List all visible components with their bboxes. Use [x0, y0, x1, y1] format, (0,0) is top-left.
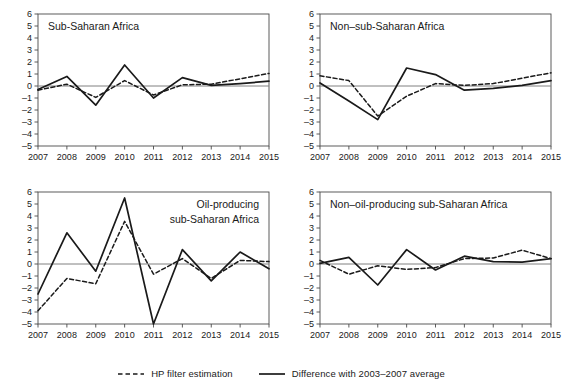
panel-title-line: Non–sub-Saharan Africa [330, 20, 445, 32]
x-tick-label: 2008 [338, 330, 358, 340]
panel-title-line: Sub-Saharan Africa [48, 20, 139, 32]
x-tick-label: 2014 [512, 330, 532, 340]
y-tick-label: –4 [22, 129, 32, 139]
y-axis: 6543210–1–2–3–4–5 [22, 9, 38, 151]
y-tick-label: 3 [27, 45, 32, 55]
y-tick-label: 6 [308, 9, 313, 19]
x-axis: 200720082009201020112012201320142015 [309, 324, 560, 340]
y-tick-label: 2 [27, 235, 32, 245]
y-tick-label: 6 [27, 9, 32, 19]
y-tick-label: –5 [22, 141, 32, 151]
legend-label-difference: Difference with 2003–2007 average [292, 368, 445, 379]
y-tick-label: 1 [308, 69, 313, 79]
panel-top-right: 6543210–1–2–3–4–520072008200920102011201… [282, 0, 563, 178]
x-tick-label: 2009 [367, 330, 387, 340]
series-line-hp-filter [320, 73, 551, 116]
y-tick-label: –1 [303, 93, 313, 103]
x-tick-label: 2015 [540, 152, 560, 162]
y-tick-label: 0 [27, 259, 32, 269]
plot-frame [38, 14, 269, 146]
x-tick-label: 2013 [483, 152, 503, 162]
y-tick-label: 6 [308, 187, 313, 197]
y-tick-label: 3 [308, 45, 313, 55]
dashed-line-icon [118, 370, 144, 378]
x-tick-label: 2014 [230, 330, 250, 340]
x-tick-label: 2013 [201, 152, 221, 162]
y-tick-label: –4 [303, 129, 313, 139]
panel-title: Non–oil-producing sub-Saharan Africa [330, 198, 508, 210]
chart-plot-top-left: 6543210–1–2–3–4–520072008200920102011201… [0, 0, 281, 178]
y-tick-label: 5 [27, 199, 32, 209]
panel-title-line: sub-Saharan Africa [170, 213, 259, 225]
x-tick-label: 2009 [367, 152, 387, 162]
x-axis: 200720082009201020112012201320142015 [28, 146, 279, 162]
panel-top-left: 6543210–1–2–3–4–520072008200920102011201… [0, 0, 282, 178]
legend-label-hp-filter: HP filter estimation [151, 368, 233, 379]
solid-line-icon [259, 370, 285, 378]
y-axis: 6543210–1–2–3–4–5 [303, 187, 319, 329]
panel-title-line: Oil-producing [197, 198, 260, 210]
x-axis: 200720082009201020112012201320142015 [28, 324, 279, 340]
x-tick-label: 2013 [483, 330, 503, 340]
y-tick-label: –3 [303, 295, 313, 305]
y-tick-label: 5 [308, 21, 313, 31]
y-tick-label: –2 [22, 283, 32, 293]
series-line-hp-filter [38, 221, 269, 310]
y-tick-label: 2 [308, 235, 313, 245]
y-tick-label: 2 [308, 57, 313, 67]
x-tick-label: 2009 [86, 152, 106, 162]
panel-bottom-left: 6543210–1–2–3–4–520072008200920102011201… [0, 178, 282, 356]
x-tick-label: 2009 [86, 330, 106, 340]
y-tick-label: 0 [308, 81, 313, 91]
x-tick-label: 2010 [115, 152, 135, 162]
x-tick-label: 2015 [259, 330, 279, 340]
x-tick-label: 2012 [172, 330, 192, 340]
x-tick-label: 2008 [57, 152, 77, 162]
panel-title-line: Non–oil-producing sub-Saharan Africa [330, 198, 508, 210]
y-tick-label: –1 [22, 271, 32, 281]
y-tick-label: –3 [303, 117, 313, 127]
x-tick-label: 2011 [144, 330, 163, 340]
y-axis: 6543210–1–2–3–4–5 [22, 187, 38, 329]
x-tick-label: 2012 [454, 152, 474, 162]
chart-plot-bottom-left: 6543210–1–2–3–4–520072008200920102011201… [0, 178, 281, 356]
series-line-hp-filter [38, 73, 269, 97]
figure-container: 6543210–1–2–3–4–520072008200920102011201… [0, 0, 563, 391]
panel-title: Non–sub-Saharan Africa [330, 20, 445, 32]
y-tick-label: 1 [27, 247, 32, 257]
x-tick-label: 2015 [540, 330, 560, 340]
x-tick-label: 2011 [425, 152, 444, 162]
panel-grid: 6543210–1–2–3–4–520072008200920102011201… [0, 0, 563, 356]
y-tick-label: 0 [308, 259, 313, 269]
chart-plot-bottom-right: 6543210–1–2–3–4–520072008200920102011201… [282, 178, 563, 356]
y-tick-label: –5 [303, 319, 313, 329]
y-tick-label: 5 [27, 21, 32, 31]
series-line-difference [320, 68, 551, 120]
panel-bottom-right: 6543210–1–2–3–4–520072008200920102011201… [282, 178, 563, 356]
panel-title: Oil-producingsub-Saharan Africa [170, 198, 259, 225]
y-tick-label: 4 [27, 33, 32, 43]
x-axis: 200720082009201020112012201320142015 [309, 146, 560, 162]
x-tick-label: 2010 [115, 330, 135, 340]
chart-legend: HP filter estimation Difference with 200… [0, 356, 563, 391]
y-tick-label: –4 [22, 307, 32, 317]
y-tick-label: 1 [27, 69, 32, 79]
x-tick-label: 2007 [309, 330, 329, 340]
y-tick-label: 6 [27, 187, 32, 197]
y-tick-label: 5 [308, 199, 313, 209]
x-tick-label: 2014 [512, 152, 532, 162]
y-tick-label: –3 [22, 117, 32, 127]
x-tick-label: 2008 [57, 330, 77, 340]
x-tick-label: 2010 [396, 330, 416, 340]
y-tick-label: –5 [303, 141, 313, 151]
x-tick-label: 2014 [230, 152, 250, 162]
y-axis: 6543210–1–2–3–4–5 [303, 9, 319, 151]
y-tick-label: 4 [308, 211, 313, 221]
y-tick-label: 2 [27, 57, 32, 67]
y-tick-label: –2 [22, 105, 32, 115]
legend-entry-difference: Difference with 2003–2007 average [259, 368, 445, 379]
x-tick-label: 2013 [201, 330, 221, 340]
y-tick-label: –3 [22, 295, 32, 305]
chart-plot-top-right: 6543210–1–2–3–4–520072008200920102011201… [282, 0, 563, 178]
x-tick-label: 2011 [425, 330, 444, 340]
